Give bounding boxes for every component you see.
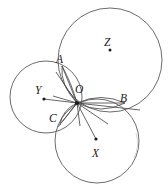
arc-o-b-upper xyxy=(77,98,125,104)
point-label-a: A xyxy=(56,54,63,66)
circle-y xyxy=(10,61,82,133)
circle-z xyxy=(58,8,162,112)
point-dot-y xyxy=(42,97,45,100)
point-dot-z xyxy=(109,49,112,52)
point-dot-o xyxy=(75,101,79,105)
point-label-x: X xyxy=(92,148,99,160)
circle-x xyxy=(55,99,139,183)
geometry-figure: A B C O X Y Z xyxy=(0,0,168,184)
point-label-z: Z xyxy=(104,37,110,49)
point-dot-x xyxy=(94,137,97,140)
point-label-o: O xyxy=(75,84,83,96)
segment-y-o xyxy=(44,99,77,103)
point-label-c: C xyxy=(49,113,57,125)
figure-canvas xyxy=(0,0,168,184)
point-label-y: Y xyxy=(35,85,41,97)
point-label-b: B xyxy=(120,93,127,105)
